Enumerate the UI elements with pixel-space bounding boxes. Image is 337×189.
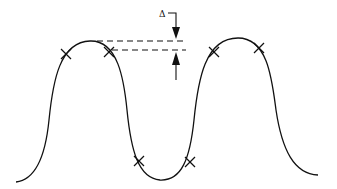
delta-label: Δ [159,9,166,19]
delta-bracket [168,13,176,28]
cross-marker-icon [254,43,264,53]
down-arrow-icon [172,27,180,39]
waveform-curve [16,38,318,182]
up-arrow-icon [172,52,180,65]
cross-marker-icon [61,49,71,59]
cross-marker-icon [185,157,195,167]
waveform-diagram: Δ [0,0,337,189]
cross-markers [61,43,264,167]
